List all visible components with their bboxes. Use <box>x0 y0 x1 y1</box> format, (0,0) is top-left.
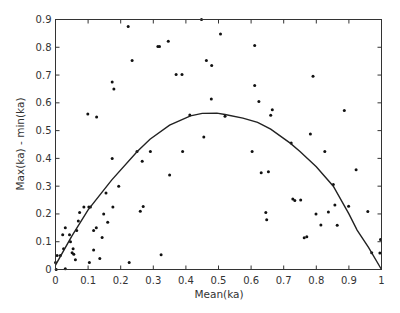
data-point <box>343 109 346 112</box>
data-point <box>105 192 108 195</box>
y-tick-label: 0.3 <box>36 181 52 192</box>
data-point <box>106 221 109 224</box>
x-tick-label: 0.5 <box>211 275 227 286</box>
data-point <box>327 211 330 214</box>
data-point <box>131 59 134 62</box>
data-point <box>139 210 142 213</box>
data-point <box>86 112 89 115</box>
data-point <box>168 174 171 177</box>
data-point <box>347 205 350 208</box>
data-point <box>88 261 91 264</box>
y-tick-label: 0.5 <box>36 125 52 136</box>
data-point <box>160 253 163 256</box>
data-point <box>181 73 184 76</box>
data-point <box>61 233 64 236</box>
x-axis-label: Mean(ka) <box>194 288 243 300</box>
y-tick-label: 0.4 <box>36 153 52 164</box>
data-point <box>127 25 130 28</box>
y-axis-ticks: 00.10.20.30.40.50.60.70.80.9 <box>36 14 382 275</box>
data-point <box>293 199 296 202</box>
data-point <box>205 59 208 62</box>
data-point <box>355 168 358 171</box>
data-point <box>333 204 336 207</box>
y-tick-label: 0.6 <box>36 97 52 108</box>
x-tick-label: 0.1 <box>80 275 96 286</box>
data-point <box>219 32 222 35</box>
data-point <box>111 81 114 84</box>
data-point <box>64 226 67 229</box>
data-point <box>82 206 85 209</box>
data-point <box>271 108 274 111</box>
data-point <box>257 100 260 103</box>
data-point <box>181 150 184 153</box>
data-point <box>56 254 59 257</box>
data-point <box>74 258 77 261</box>
data-point <box>210 97 213 100</box>
data-point <box>315 212 318 215</box>
data-point <box>253 44 256 47</box>
x-tick-label: 0.7 <box>276 275 292 286</box>
data-point <box>323 150 326 153</box>
data-point <box>72 247 75 250</box>
plot-frame <box>56 20 382 270</box>
x-axis-ticks: 00.10.20.30.40.50.60.70.80.91 <box>52 20 384 286</box>
data-point <box>98 257 101 260</box>
data-point <box>102 212 105 215</box>
data-point <box>92 249 95 252</box>
x-tick-label: 0 <box>52 275 58 286</box>
data-point <box>68 233 71 236</box>
x-tick-label: 0.9 <box>341 275 357 286</box>
data-point <box>312 75 315 78</box>
y-tick-label: 0.2 <box>36 208 52 219</box>
data-point <box>111 206 114 209</box>
data-point <box>101 236 104 239</box>
data-point <box>78 211 81 214</box>
data-point <box>158 45 161 48</box>
data-point <box>366 210 369 213</box>
data-point <box>167 40 170 43</box>
data-point <box>77 219 80 222</box>
data-point <box>251 150 254 153</box>
data-point <box>267 170 270 173</box>
fit-curve <box>56 113 382 269</box>
data-point <box>309 132 312 135</box>
data-point <box>72 253 75 256</box>
data-point <box>95 226 98 229</box>
data-point <box>253 84 256 87</box>
data-point <box>305 235 308 238</box>
data-point <box>92 229 95 232</box>
data-point <box>210 64 213 67</box>
scatter-chart: 00.10.20.30.40.50.60.70.80.91 00.10.20.3… <box>0 0 400 313</box>
y-tick-label: 0.8 <box>36 42 52 53</box>
data-point <box>303 236 306 239</box>
data-point <box>175 73 178 76</box>
y-axis-label: Max(ka) - min(ka) <box>14 97 26 190</box>
x-tick-label: 0.6 <box>243 275 259 286</box>
y-tick-label: 0.7 <box>36 70 52 81</box>
data-point <box>128 261 131 264</box>
data-point <box>378 252 381 255</box>
data-point <box>319 224 322 227</box>
x-tick-label: 0.3 <box>145 275 161 286</box>
plot-area <box>54 18 382 271</box>
data-point <box>149 150 152 153</box>
data-point <box>269 114 272 117</box>
data-point <box>336 224 339 227</box>
x-tick-label: 0.2 <box>113 275 129 286</box>
data-point <box>264 211 267 214</box>
x-tick-label: 0.8 <box>308 275 324 286</box>
data-point <box>111 157 114 160</box>
x-tick-label: 1 <box>378 275 384 286</box>
data-point <box>202 136 205 139</box>
data-point <box>112 87 115 90</box>
y-tick-label: 0 <box>45 264 51 275</box>
x-tick-label: 0.4 <box>178 275 194 286</box>
data-point <box>299 199 302 202</box>
data-point <box>142 205 145 208</box>
data-point <box>95 116 98 119</box>
data-point <box>117 185 120 188</box>
y-tick-label: 0.1 <box>36 236 52 247</box>
data-point <box>265 218 268 221</box>
y-tick-label: 0.9 <box>36 14 52 25</box>
data-point <box>260 171 263 174</box>
